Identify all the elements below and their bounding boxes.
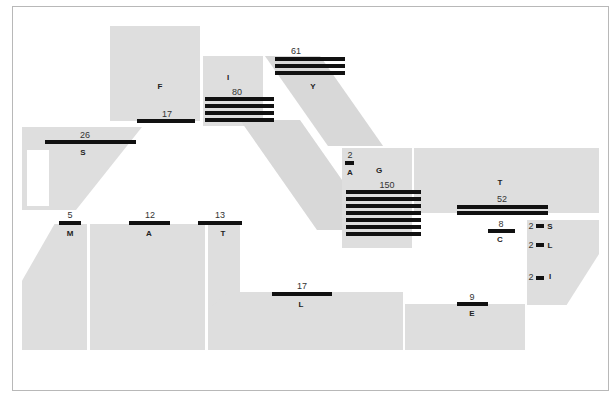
group-m-name: M — [64, 229, 76, 239]
group-f-bar[interactable] — [137, 119, 195, 123]
group-g-bar[interactable] — [346, 211, 421, 215]
group-a1-bar[interactable] — [345, 161, 354, 165]
group-s-value: 26 — [73, 130, 97, 140]
group-s-name: S — [77, 148, 89, 158]
group-e-value: 9 — [466, 292, 478, 302]
group-m-bar[interactable] — [59, 221, 81, 225]
group-e-bar[interactable] — [457, 302, 488, 306]
group-g-bar[interactable] — [346, 232, 421, 236]
group-f-name: F — [154, 82, 166, 92]
group-i2-value: 2 — [527, 272, 535, 282]
group-c-value: 8 — [495, 219, 507, 229]
group-l1-value: 2 — [527, 240, 535, 250]
group-f-value: 17 — [155, 109, 179, 119]
group-i-bar[interactable] — [205, 111, 274, 115]
group-l2-name: L — [295, 300, 307, 310]
group-g-name: G — [373, 166, 385, 176]
zone-a — [90, 224, 205, 350]
group-t1-bar[interactable] — [457, 211, 548, 215]
group-i-name: I — [222, 73, 234, 83]
group-g-bar[interactable] — [346, 190, 421, 194]
zone-f — [110, 26, 200, 121]
group-c-name: C — [494, 235, 506, 245]
group-s2-name: S — [546, 222, 554, 232]
group-l2-value: 17 — [290, 281, 314, 291]
group-i-bar[interactable] — [205, 104, 274, 108]
group-i-value: 80 — [225, 87, 249, 97]
group-y-bar[interactable] — [275, 57, 345, 61]
group-l2-bar[interactable] — [272, 292, 332, 296]
group-c-bar[interactable] — [488, 229, 515, 233]
group-s-bar[interactable] — [45, 140, 136, 144]
group-s2-value: 2 — [527, 221, 535, 231]
group-t2-bar[interactable] — [198, 221, 242, 225]
group-t1-name: T — [494, 178, 506, 188]
group-y-bar[interactable] — [275, 71, 345, 75]
group-i-bar[interactable] — [205, 118, 274, 122]
zone-s-inner — [27, 150, 49, 206]
group-g-bar[interactable] — [346, 197, 421, 201]
group-e-name: E — [466, 309, 478, 319]
group-i-bar[interactable] — [205, 97, 274, 101]
group-a2-value: 12 — [138, 210, 162, 220]
group-l1-name: L — [546, 241, 554, 251]
zone-e — [405, 304, 525, 350]
group-g-bar[interactable] — [346, 225, 421, 229]
group-a2-name: A — [143, 229, 155, 239]
group-y-value: 61 — [284, 46, 308, 56]
group-t1-bar[interactable] — [457, 205, 548, 209]
group-t1-value: 52 — [490, 194, 514, 204]
group-t2-name: T — [217, 229, 229, 239]
group-s2-bar[interactable] — [536, 224, 544, 228]
group-g-value: 150 — [375, 180, 399, 190]
group-g-bar[interactable] — [346, 204, 421, 208]
group-a1-name: A — [344, 168, 356, 178]
group-m-value: 5 — [64, 210, 76, 220]
group-l1-bar[interactable] — [536, 243, 544, 247]
group-y-name: Y — [307, 82, 319, 92]
group-t2-value: 13 — [208, 210, 232, 220]
group-g-bar[interactable] — [346, 218, 421, 222]
group-i2-name: I — [546, 272, 554, 282]
group-y-bar[interactable] — [275, 64, 345, 68]
group-i2-bar[interactable] — [536, 276, 544, 280]
group-a1-value: 2 — [344, 150, 356, 160]
group-a2-bar[interactable] — [129, 221, 170, 225]
